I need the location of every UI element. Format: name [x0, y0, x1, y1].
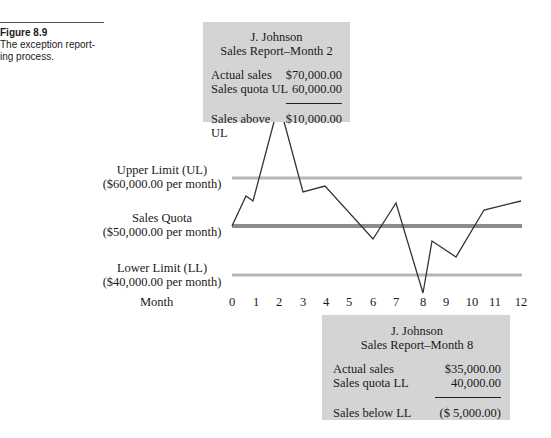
x-tick: 7: [393, 295, 399, 310]
x-axis-label: Month: [140, 295, 173, 310]
row-label: Sales quota LL: [333, 376, 409, 390]
report-total-row: Sales below LL ($ 5,000.00): [333, 406, 501, 420]
report-name: J. Johnson: [333, 324, 501, 338]
sales-quota-value: ($50,000.00 per month): [97, 225, 227, 239]
report-box-month-2: J. Johnson Sales Report–Month 2 Actual s…: [203, 22, 350, 122]
row-label: Actual sales: [333, 362, 394, 376]
row-label: Actual sales: [211, 68, 272, 82]
x-tick: 12: [515, 295, 528, 310]
report-box-month-8: J. Johnson Sales Report–Month 8 Actual s…: [322, 315, 510, 420]
total-value: ($ 5,000.00): [440, 406, 501, 420]
upper-limit-value: ($60,000.00 per month): [97, 177, 227, 191]
sales-quota-title: Sales Quota: [97, 211, 227, 225]
sales-quota-label: Sales Quota ($50,000.00 per month): [97, 211, 227, 239]
report-title: Sales Report–Month 2: [211, 44, 342, 58]
total-label: Sales above UL: [211, 112, 286, 140]
row-value: 60,000.00: [292, 82, 342, 96]
x-tick: 5: [346, 295, 352, 310]
row-value: $35,000.00: [445, 362, 501, 376]
x-tick: 9: [443, 295, 449, 310]
row-value: $70,000.00: [286, 68, 342, 82]
x-tick: 11: [489, 295, 501, 310]
x-tick: 8: [420, 295, 426, 310]
x-tick: 0: [229, 295, 235, 310]
x-tick: 3: [300, 295, 306, 310]
row-value: 40,000.00: [451, 376, 501, 390]
report-row: Sales quota LL 40,000.00: [333, 376, 501, 390]
total-label: Sales below LL: [333, 406, 411, 420]
report-title: Sales Report–Month 8: [333, 338, 501, 352]
sum-rule: [435, 397, 501, 398]
x-tick: 4: [323, 295, 329, 310]
report-row: Actual sales $70,000.00: [211, 68, 342, 82]
report-row: Actual sales $35,000.00: [333, 362, 501, 376]
upper-limit-title: Upper Limit (UL): [97, 163, 227, 177]
lower-limit-value: ($40,000.00 per month): [97, 275, 227, 289]
lower-limit-title: Lower Limit (LL): [97, 261, 227, 275]
report-total-row: Sales above UL $10,000.00: [211, 112, 342, 140]
total-value: $10,000.00: [286, 112, 342, 140]
x-tick: 10: [466, 295, 479, 310]
row-label: Sales quota UL: [211, 82, 288, 96]
x-tick: 1: [253, 295, 259, 310]
sum-rule: [286, 103, 342, 104]
x-tick: 6: [370, 295, 376, 310]
report-row: Sales quota UL 60,000.00: [211, 82, 342, 96]
report-name: J. Johnson: [211, 30, 342, 44]
lower-limit-label: Lower Limit (LL) ($40,000.00 per month): [97, 261, 227, 289]
upper-limit-label: Upper Limit (UL) ($60,000.00 per month): [97, 163, 227, 191]
x-tick: 2: [276, 295, 282, 310]
